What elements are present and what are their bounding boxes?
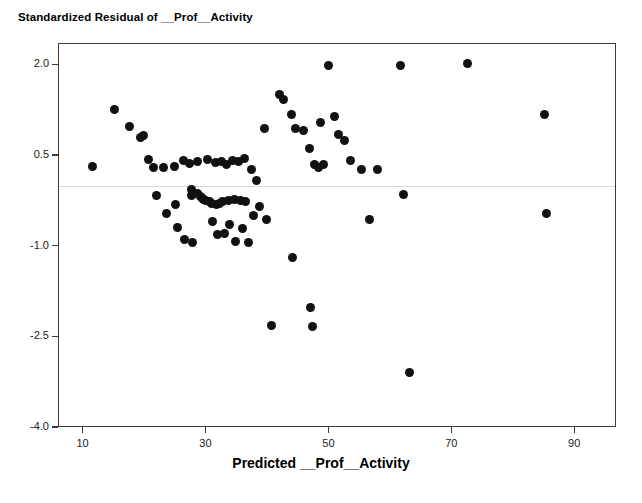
data-point bbox=[208, 217, 217, 226]
y-axis-tick-label: 2.0 bbox=[34, 57, 49, 69]
data-point bbox=[262, 215, 271, 224]
data-point bbox=[255, 202, 264, 211]
data-point bbox=[316, 118, 325, 127]
data-point bbox=[365, 215, 374, 224]
data-point bbox=[240, 154, 249, 163]
data-point bbox=[162, 209, 171, 218]
data-point bbox=[149, 163, 158, 172]
data-point bbox=[139, 131, 148, 140]
data-point bbox=[88, 162, 97, 171]
data-point bbox=[249, 211, 258, 220]
data-point bbox=[159, 163, 168, 172]
data-point bbox=[170, 162, 179, 171]
data-point bbox=[225, 220, 234, 229]
data-point bbox=[279, 95, 288, 104]
x-axis-tick-mark bbox=[205, 427, 206, 433]
data-point bbox=[396, 61, 405, 70]
x-axis-tick-label: 90 bbox=[568, 437, 580, 449]
y-axis-tick-label: 0.5 bbox=[34, 148, 49, 160]
y-axis-tick-label: -4.0 bbox=[30, 420, 49, 432]
data-point bbox=[252, 176, 261, 185]
data-point bbox=[241, 197, 250, 206]
scatter-plot-figure: Standardized Residual of __Prof__Activit… bbox=[0, 0, 642, 503]
zero-reference-line bbox=[59, 186, 615, 187]
data-point bbox=[540, 110, 549, 119]
data-point bbox=[267, 321, 276, 330]
y-axis-tick-label: -1.0 bbox=[30, 239, 49, 251]
x-axis-tick-mark bbox=[574, 427, 575, 433]
data-point bbox=[260, 124, 269, 133]
x-axis-tick-label: 50 bbox=[322, 437, 334, 449]
data-point bbox=[340, 136, 349, 145]
x-axis-tick-mark bbox=[82, 427, 83, 433]
data-point bbox=[542, 209, 551, 218]
data-point bbox=[171, 200, 180, 209]
data-point bbox=[346, 156, 355, 165]
x-axis-tick-mark bbox=[328, 427, 329, 433]
data-point bbox=[173, 223, 182, 232]
x-axis-tick-label: 10 bbox=[76, 437, 88, 449]
data-point bbox=[110, 105, 119, 114]
data-point bbox=[288, 253, 297, 262]
data-point bbox=[308, 322, 317, 331]
plot-area bbox=[58, 43, 616, 427]
data-point bbox=[330, 112, 339, 121]
data-point bbox=[299, 126, 308, 135]
x-axis-tick-label: 70 bbox=[445, 437, 457, 449]
data-point bbox=[188, 238, 197, 247]
data-point bbox=[152, 191, 161, 200]
data-point bbox=[231, 237, 240, 246]
data-point bbox=[220, 229, 229, 238]
x-axis-title: Predicted __Prof__Activity bbox=[0, 455, 642, 471]
data-point bbox=[193, 157, 202, 166]
data-point bbox=[244, 238, 253, 247]
data-point bbox=[357, 165, 366, 174]
data-point bbox=[405, 368, 414, 377]
chart-title: Standardized Residual of __Prof__Activit… bbox=[18, 11, 253, 23]
data-point bbox=[463, 59, 472, 68]
data-point bbox=[373, 165, 382, 174]
data-point bbox=[306, 303, 315, 312]
data-point bbox=[324, 61, 333, 70]
data-point bbox=[287, 110, 296, 119]
data-point bbox=[247, 165, 256, 174]
data-point bbox=[125, 122, 134, 131]
data-point bbox=[319, 160, 328, 169]
y-axis-tick-label: -2.5 bbox=[30, 329, 49, 341]
x-axis-tick-mark bbox=[451, 427, 452, 433]
x-axis-tick-label: 30 bbox=[199, 437, 211, 449]
data-point bbox=[305, 144, 314, 153]
data-point bbox=[399, 190, 408, 199]
data-point bbox=[238, 224, 247, 233]
